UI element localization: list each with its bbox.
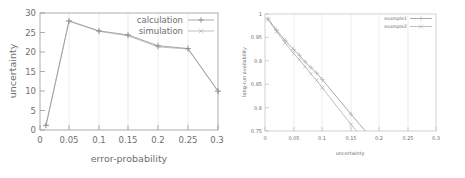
left-ytick-label-20: 20 — [25, 47, 36, 57]
left-chart-svg: 0 5 10 15 20 25 30 0 0.05 0.1 0.15 0.2 0… — [0, 0, 232, 178]
right-ytick-label-1: 1 — [259, 11, 262, 17]
right-ytick-label-08: 0.8 — [254, 105, 262, 111]
right-x-tickmarks — [265, 127, 436, 131]
right-y-axis-title: long-run availability — [241, 47, 248, 97]
left-xtick-label-03: 0.3 — [210, 135, 224, 145]
left-y-tickmarks — [40, 13, 45, 130]
chart-panel-left: 0 5 10 15 20 25 30 0 0.05 0.1 0.15 0.2 0… — [0, 0, 232, 178]
left-ytick-label-0: 0 — [31, 125, 36, 135]
chart-panel-right: 0.75 0.8 0.85 0.9 0.95 1 0 0.05 0.1 0.15… — [232, 0, 465, 178]
right-x-axis-title: uncertainty — [336, 150, 365, 157]
left-simulation-markers — [43, 18, 221, 128]
left-ytick-label-15: 15 — [25, 67, 36, 77]
left-legend-label-calculation: calculation — [137, 15, 183, 25]
left-xtick-label-02: 0.2 — [151, 135, 165, 145]
right-xtick-label-0: 0 — [263, 135, 266, 141]
left-xtick-label-005: 0.05 — [60, 135, 79, 145]
right-ytick-label-085: 0.85 — [251, 81, 262, 87]
right-xtick-label-005: 0.05 — [288, 135, 299, 141]
right-xtick-label-02: 0.2 — [375, 135, 383, 141]
left-ytick-label-10: 10 — [25, 86, 36, 96]
right-xtick-label-015: 0.15 — [345, 135, 356, 141]
left-series-simulation — [43, 18, 221, 128]
left-xtick-label-025: 0.25 — [179, 135, 198, 145]
left-ytick-label-5: 5 — [31, 106, 36, 116]
left-ytick-label-25: 25 — [25, 28, 36, 38]
left-legend-marker-calculation — [198, 17, 204, 23]
left-legend-label-simulation: simulation — [139, 26, 183, 36]
left-calculation-markers — [43, 18, 221, 129]
right-xtick-label-025: 0.25 — [402, 135, 413, 141]
left-y-axis-title: uncertainty — [7, 43, 18, 98]
right-xtick-label-01: 0.1 — [318, 135, 326, 141]
right-ytick-label-095: 0.95 — [251, 34, 262, 40]
left-ytick-label-30: 30 — [25, 8, 36, 18]
left-legend: calculation simulation — [137, 15, 214, 36]
right-legend-label-example2: example2 — [384, 24, 407, 29]
figure-container: 0 5 10 15 20 25 30 0 0.05 0.1 0.15 0.2 0… — [0, 0, 465, 178]
right-ytick-label-09: 0.9 — [254, 58, 262, 64]
left-x-axis-title: error-probability — [91, 153, 168, 164]
left-x-tickmarks — [40, 125, 218, 130]
left-xtick-label-015: 0.15 — [119, 135, 138, 145]
left-xtick-label-01: 0.1 — [92, 135, 106, 145]
right-chart-svg: 0.75 0.8 0.85 0.9 0.95 1 0 0.05 0.1 0.15… — [232, 0, 465, 178]
right-legend-marker-example1 — [419, 16, 424, 21]
left-xtick-label-0: 0 — [37, 135, 42, 145]
right-xtick-label-03: 0.3 — [432, 135, 440, 141]
right-ytick-label-075: 0.75 — [251, 128, 262, 134]
right-legend-label-example1: example1 — [384, 16, 407, 21]
left-series-calculation — [43, 18, 221, 129]
right-y-tickmarks — [265, 14, 269, 131]
